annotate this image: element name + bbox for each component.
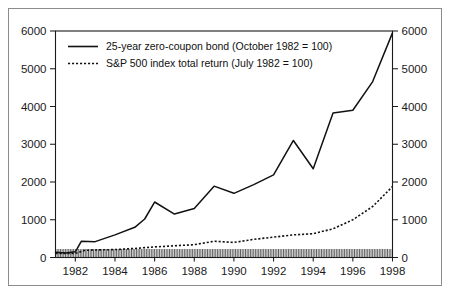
chart-figure: 25-year zero-coupon bond (October 1982 =… <box>0 0 452 301</box>
y-axis-right-labels: 0100020003000400050006000 <box>402 25 428 264</box>
y-tick-label-left: 0 <box>40 252 46 264</box>
y-tick-label-left: 5000 <box>21 63 47 75</box>
y-tick-label-right: 0 <box>402 252 408 264</box>
y-tick-label-right: 1000 <box>402 214 428 226</box>
x-tick-label: 1994 <box>300 265 326 277</box>
line-chart: 25-year zero-coupon bond (October 1982 =… <box>0 0 452 301</box>
x-tick-label: 1982 <box>63 265 89 277</box>
x-tick-label: 1990 <box>221 265 247 277</box>
y-axis-left-labels: 0100020003000400050006000 <box>21 25 47 264</box>
y-tick-label-right: 6000 <box>402 25 428 37</box>
y-tick-label-left: 6000 <box>21 25 47 37</box>
y-tick-label-left: 1000 <box>21 214 47 226</box>
y-axis-left-ticks <box>50 31 56 258</box>
legend-label-text: S&P 500 index total return (July 1982 = … <box>106 57 313 69</box>
y-tick-label-right: 4000 <box>402 101 428 113</box>
y-tick-label-right: 2000 <box>402 176 428 188</box>
y-axis-right-ticks <box>393 31 399 258</box>
chart-legend: 25-year zero-coupon bond (October 1982 =… <box>68 40 332 69</box>
x-tick-label: 1986 <box>142 265 168 277</box>
y-tick-label-left: 2000 <box>21 176 47 188</box>
x-tick-label: 1984 <box>102 265 128 277</box>
x-axis-minor-ticks <box>56 249 393 257</box>
x-tick-label: 1988 <box>181 265 207 277</box>
y-tick-label-right: 3000 <box>402 138 428 150</box>
x-tick-label: 1992 <box>261 265 287 277</box>
y-tick-label-right: 5000 <box>402 63 428 75</box>
x-axis-labels: 198219841986198819901992199419961998 <box>63 265 406 277</box>
x-tick-label: 1998 <box>380 265 406 277</box>
series-line-sp500 <box>56 187 393 254</box>
y-tick-label-left: 3000 <box>21 138 47 150</box>
legend-label-text: 25-year zero-coupon bond (October 1982 =… <box>106 40 332 52</box>
y-tick-label-left: 4000 <box>21 101 47 113</box>
x-tick-label: 1996 <box>340 265 366 277</box>
x-axis-ticks <box>75 258 392 262</box>
